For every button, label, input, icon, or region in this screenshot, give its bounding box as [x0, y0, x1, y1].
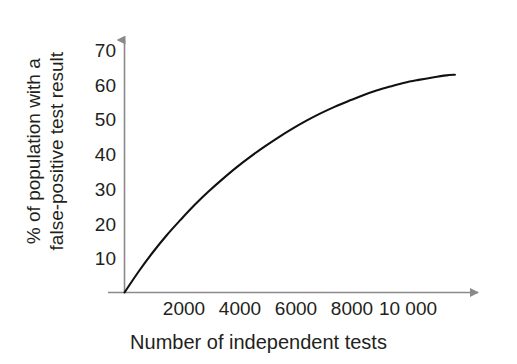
y-tick-label-10: 10: [74, 249, 116, 268]
x-tick-label-10000: 10 000: [368, 299, 448, 318]
y-tick-label-60: 60: [74, 76, 116, 95]
false-positive-curve: [125, 75, 455, 293]
y-axis-title-line-1: % of population with a: [22, 16, 45, 286]
y-tick-label-30: 30: [74, 180, 116, 199]
y-tick-label-70: 70: [74, 41, 116, 60]
y-tick-label-40: 40: [74, 145, 116, 164]
y-tick-label-20: 20: [74, 215, 116, 234]
y-axis-title-line-2: false-positive test result: [45, 16, 68, 286]
x-axis-title: Number of independent tests: [0, 331, 517, 354]
y-tick-label-50: 50: [74, 110, 116, 129]
false-positive-rate-chart: 70 60 50 40 30 20 10 2000 4000 6000 8000…: [0, 0, 517, 364]
y-axis-title: % of population with a false-positive te…: [22, 16, 68, 286]
